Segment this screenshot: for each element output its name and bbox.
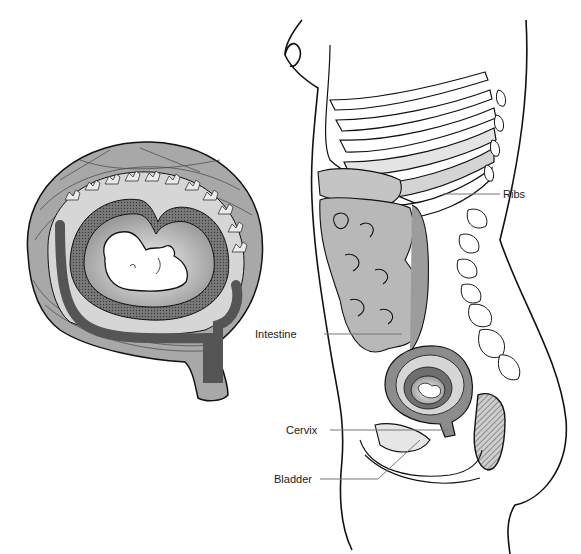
uterus-in-torso bbox=[385, 346, 472, 437]
label-ribs: Ribs bbox=[503, 188, 525, 200]
label-intestine: Intestine bbox=[255, 328, 297, 340]
label-cervix: Cervix bbox=[286, 424, 317, 436]
body-back-outline bbox=[500, 20, 566, 554]
uterus-cross-section bbox=[27, 142, 262, 401]
intestines bbox=[318, 169, 428, 352]
bladder-organ bbox=[360, 424, 482, 483]
anatomy-illustration bbox=[0, 0, 581, 554]
label-bladder: Bladder bbox=[274, 473, 312, 485]
breast bbox=[285, 44, 300, 67]
